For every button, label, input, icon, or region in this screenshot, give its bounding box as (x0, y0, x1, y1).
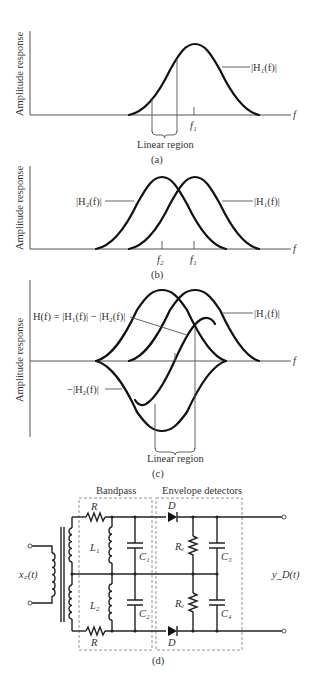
y-axis-label: Amplitude response (14, 31, 25, 116)
neg-h2-label: −|H₂(f)| (67, 384, 99, 396)
h1-label: |H₁(f)| (254, 308, 280, 320)
envelope-detectors-title: Envelope detectors (162, 485, 242, 496)
resistor-top-icon (86, 513, 105, 521)
capacitor-c1-icon (127, 517, 143, 574)
capacitor-c3-icon (209, 517, 225, 574)
neg-h2-curve (96, 361, 226, 431)
diode-top-icon (168, 512, 177, 522)
capacitor-c4-icon (209, 574, 225, 631)
caption-a: (a) (151, 154, 163, 166)
panel-b: Amplitude response f |H₂(f)| |H₁(f)| f₂ … (14, 165, 298, 281)
x-axis-label: f (293, 355, 298, 366)
panel-a: Amplitude response f |H₁(f)| f₁ Linear r… (14, 31, 298, 166)
input-terminal-top (28, 544, 32, 548)
diode-top-label: D (167, 500, 176, 511)
capacitor-c3-label: C₃ (221, 551, 232, 562)
f1-label: f₁ (190, 120, 197, 131)
primary-coil-icon (52, 553, 55, 596)
secondary-coil-top-icon (69, 528, 72, 562)
balanced-discriminator-figure: Amplitude response f |H₁(f)| f₁ Linear r… (0, 0, 315, 679)
panel-d-circuit: Bandpass Envelope detectors x꜀(t) R D (18, 485, 300, 667)
h2-curve (96, 290, 226, 361)
h1-curve (129, 177, 259, 249)
difference-label: H(f) = |H₁(f)| − |H₂(f)| (33, 311, 125, 323)
caption-c: (c) (152, 468, 164, 480)
linear-region-brace (152, 131, 177, 138)
f2-label: f₂ (157, 254, 164, 265)
inductor-l1-icon (109, 527, 112, 563)
output-label: y_D(t) (271, 569, 300, 581)
resistor-re-top-label: Rₑ (174, 541, 184, 552)
inductor-l1-label: L₁ (89, 542, 100, 553)
h2-curve (96, 177, 226, 249)
capacitor-c2-label: C₂ (139, 608, 150, 619)
h1-label: |H₁(f)| (251, 62, 277, 74)
resistor-bottom-icon (86, 627, 105, 635)
output-terminal-top (282, 515, 286, 519)
capacitor-c2-icon (127, 574, 143, 631)
resistor-re-bottom-icon (189, 593, 197, 631)
x-axis-label: f (293, 243, 298, 254)
f1-label: f₁ (190, 254, 197, 265)
input-label: x꜀(t) (18, 569, 38, 581)
primary-wire-top (32, 546, 52, 553)
linear-region-label: Linear region (137, 139, 195, 150)
input-terminal-bottom (28, 601, 32, 605)
diode-bottom-icon (168, 626, 177, 636)
resistor-bottom-label: R (90, 637, 98, 648)
panel-c: Amplitude response f H(f) = |H₁(f)| − |H… (14, 280, 298, 480)
h2-label: |H₂(f)| (76, 196, 102, 208)
x-axis-label: f (293, 109, 298, 120)
bandpass-title: Bandpass (96, 485, 136, 496)
capacitor-c4-label: C₄ (221, 608, 232, 619)
caption-b: (b) (151, 269, 164, 281)
linear-region-label: Linear region (147, 453, 205, 464)
output-terminal-bottom (282, 629, 286, 633)
capacitor-c1-label: C₁ (139, 551, 150, 562)
inductor-l2-icon (109, 584, 112, 620)
caption-d: (d) (152, 655, 165, 667)
resistor-top-label: R (90, 501, 98, 512)
resistor-re-top-icon (189, 536, 197, 574)
h1-curve (129, 44, 259, 115)
y-axis-label: Amplitude response (14, 317, 25, 402)
resistor-re-bottom-label: Rₑ (174, 598, 184, 609)
inductor-l2-label: L₂ (89, 600, 100, 611)
primary-wire-bottom (32, 596, 52, 603)
y-axis-label: Amplitude response (14, 165, 25, 250)
h1-label: |H₁(f)| (254, 196, 280, 208)
diode-bottom-label: D (167, 637, 176, 648)
secondary-coil-bottom-icon (69, 585, 72, 619)
